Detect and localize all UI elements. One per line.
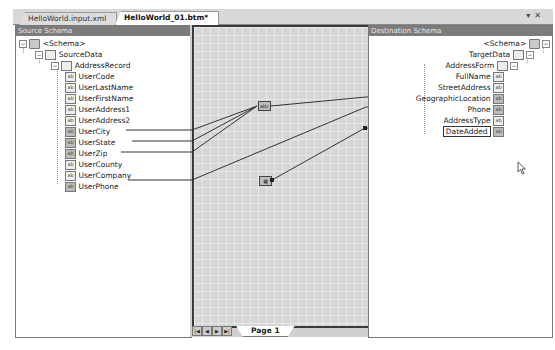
mouse-cursor-icon <box>517 161 527 177</box>
field-label: UserCity <box>78 127 110 136</box>
destination-schema-header: Destination Schema <box>369 26 552 36</box>
field-label: FullName <box>456 72 491 81</box>
prev-page-button[interactable]: ◀ <box>202 326 212 336</box>
linked-field-icon: ab <box>65 182 76 192</box>
field-label: UserZip <box>78 149 107 158</box>
field-label: UserFirstName <box>78 94 133 103</box>
destination-field-streetaddress[interactable]: StreetAddress ab <box>438 82 504 93</box>
source-field-usercounty[interactable]: ab UserCounty <box>65 159 122 170</box>
collapse-icon[interactable]: − <box>526 51 534 59</box>
tab-helloworld-01-btm[interactable]: HelloWorld_01.btm* <box>115 11 219 25</box>
field-label: UserPhone <box>78 182 118 191</box>
field-icon: ab <box>65 160 76 170</box>
field-icon: ab <box>65 171 76 181</box>
collapse-icon[interactable]: − <box>510 62 518 70</box>
map-grid[interactable] <box>192 25 370 328</box>
destination-field-phone[interactable]: Phone ab <box>467 104 504 115</box>
source-field-usercode[interactable]: ab UserCode <box>65 71 115 82</box>
field-icon: ab <box>65 72 76 82</box>
field-label: AddressType <box>444 116 491 125</box>
node-label: AddressRecord <box>75 61 131 70</box>
record-icon <box>61 61 72 71</box>
last-page-button[interactable]: ▶| <box>222 326 232 336</box>
node-label: TargetData <box>469 50 510 59</box>
field-icon: ab <box>65 116 76 126</box>
source-field-usercompany[interactable]: ab UserCompany <box>65 170 131 181</box>
field-icon: ab <box>493 72 504 82</box>
record-icon <box>497 61 508 71</box>
source-schema-header: Source Schema <box>16 26 191 36</box>
close-icon[interactable]: ✕ <box>534 11 545 20</box>
schema-folder-icon <box>29 39 40 49</box>
source-record-node[interactable]: − SourceData <box>35 49 102 60</box>
collapse-icon[interactable]: − <box>19 40 27 48</box>
linked-field-icon: ab <box>65 127 76 137</box>
source-field-useraddress1[interactable]: ab UserAddress1 <box>65 104 130 115</box>
window-buttons: ▾✕ <box>526 11 545 20</box>
field-label: UserAddress2 <box>78 116 130 125</box>
field-label: UserState <box>78 138 115 147</box>
next-page-button[interactable]: ▶ <box>212 326 222 336</box>
node-label: <Schema> <box>483 39 526 48</box>
node-label: SourceData <box>59 50 103 59</box>
record-icon <box>45 50 56 60</box>
destination-field-geographiclocation[interactable]: GeographicLocation ab <box>416 93 504 104</box>
linked-field-icon: ab <box>65 138 76 148</box>
node-label: AddressForm <box>445 61 494 70</box>
source-schema-pane: Source Schema − <Schema> − SourceData − … <box>15 25 192 338</box>
tab-helloworld-input-xml[interactable]: HelloWorld.input.xml <box>19 12 117 25</box>
field-label: GeographicLocation <box>416 94 491 103</box>
node-label: <Schema> <box>43 39 86 48</box>
destination-subrecord-node[interactable]: AddressForm − <box>445 60 518 71</box>
schema-folder-icon <box>529 39 540 49</box>
destination-root-node[interactable]: <Schema> − <box>483 38 550 49</box>
source-root-node[interactable]: − <Schema> <box>19 38 86 49</box>
field-icon: ab <box>493 83 504 93</box>
field-label: UserAddress1 <box>78 105 130 114</box>
destination-schema-pane: Destination Schema <Schema> − TargetData… <box>368 25 553 338</box>
linked-field-icon: ab <box>493 127 504 137</box>
source-field-usercity[interactable]: ab UserCity <box>65 126 110 137</box>
collapse-icon[interactable]: − <box>542 40 550 48</box>
field-icon: ab <box>65 94 76 104</box>
collapse-icon[interactable]: − <box>35 51 43 59</box>
first-page-button[interactable]: |◀ <box>192 326 202 336</box>
page-tab[interactable]: Page 1 <box>236 326 295 337</box>
document-tab-strip: HelloWorld.input.xml HelloWorld_01.btm* … <box>13 9 553 25</box>
field-icon: ab <box>65 105 76 115</box>
source-field-useraddress2[interactable]: ab UserAddress2 <box>65 115 130 126</box>
destination-field-fullname[interactable]: FullName ab <box>456 71 504 82</box>
destination-record-node[interactable]: TargetData − <box>469 49 534 60</box>
source-field-userstate[interactable]: ab UserState <box>65 137 115 148</box>
field-label: StreetAddress <box>438 83 491 92</box>
source-field-userfirstname[interactable]: ab UserFirstName <box>65 93 133 104</box>
source-field-userphone[interactable]: ab UserPhone <box>65 181 119 192</box>
field-label: UserCode <box>78 72 114 81</box>
field-label: UserCounty <box>78 160 122 169</box>
field-icon: ab <box>65 83 76 93</box>
page-navigation-bar: |◀◀▶▶|Page 1 <box>192 326 295 337</box>
field-label: Phone <box>467 105 490 114</box>
field-icon: ab <box>493 116 504 126</box>
tree-line <box>57 64 59 184</box>
field-label: UserCompany <box>78 171 131 180</box>
destination-field-addresstype[interactable]: AddressType ab <box>444 115 505 126</box>
field-label: UserLastName <box>78 83 133 92</box>
date-functoid-icon[interactable]: ▦ <box>259 176 272 186</box>
linked-field-icon: ab <box>493 94 504 104</box>
destination-field-dateadded[interactable]: DateAdded ab <box>443 126 504 137</box>
record-icon <box>513 50 524 60</box>
field-label: DateAdded <box>443 126 491 137</box>
source-subrecord-node[interactable]: − AddressRecord <box>51 60 131 71</box>
source-field-userlastname[interactable]: ab UserLastName <box>65 82 133 93</box>
collapse-icon[interactable]: − <box>51 62 59 70</box>
string-concatenate-functoid-icon[interactable]: abc <box>258 101 271 111</box>
source-field-userzip[interactable]: ab UserZip <box>65 148 107 159</box>
linked-field-icon: ab <box>493 105 504 115</box>
linked-field-icon: ab <box>65 149 76 159</box>
